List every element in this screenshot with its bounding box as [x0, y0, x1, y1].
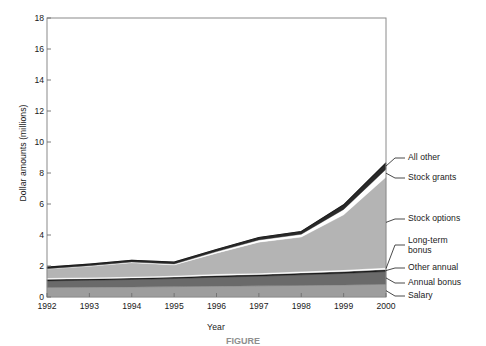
legend-label-salary: Salary [408, 291, 433, 301]
legend-label-annual-bonus: Annual bonus [408, 278, 461, 288]
figure-chart: 024681012141618 199219931994199519961997… [0, 0, 486, 346]
legend-label-all-other: All other [408, 153, 440, 163]
legend-label-other-annual: Other annual [408, 263, 458, 273]
legend-label-long-term-bonus: Long-term bonus [408, 236, 448, 255]
legend-label-stock-options: Stock options [408, 214, 460, 224]
legend-label-stock-grants: Stock grants [408, 173, 456, 183]
legend-callouts: All otherStock grantsStock optionsLong-t… [0, 0, 486, 346]
figure-caption: FIGURE [0, 336, 486, 346]
